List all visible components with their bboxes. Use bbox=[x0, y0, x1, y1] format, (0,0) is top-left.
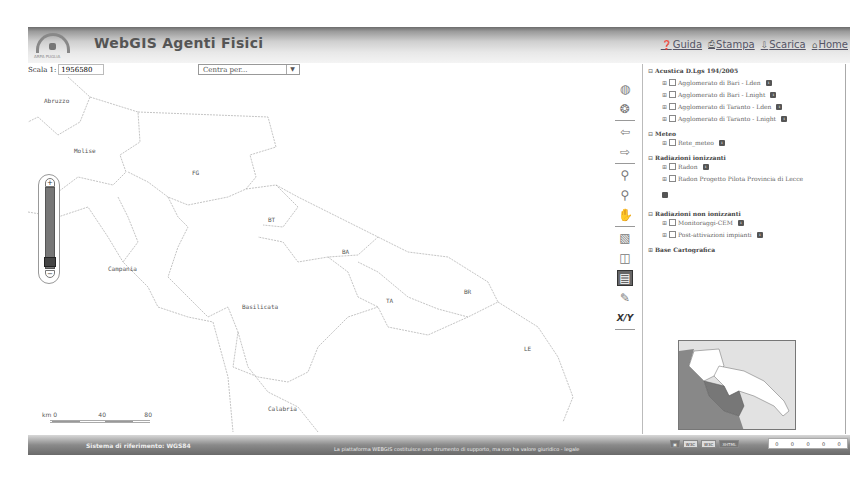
top-links: ❓Guida ⎙Stampa ⇩Scarica ⌂Home bbox=[661, 39, 848, 50]
scale-bar: km 0 40 80 bbox=[42, 411, 152, 418]
scale-input[interactable] bbox=[58, 64, 104, 75]
map-label-le: LE bbox=[524, 345, 531, 352]
layer-item: ⊞Agglomerato di Taranto - Lnighti bbox=[662, 115, 845, 122]
arpa-logo: ARPA PUGLIA bbox=[34, 31, 74, 63]
expand-icon[interactable]: ⊞ bbox=[662, 103, 667, 110]
layer-item: ⊞Post-attivazioni impiantii bbox=[662, 231, 845, 238]
info-icon[interactable]: i bbox=[719, 140, 725, 146]
previous-extent-icon[interactable]: ⇦ bbox=[617, 124, 633, 140]
info-icon[interactable]: i bbox=[738, 220, 744, 226]
app-title: WebGIS Agenti Fisici bbox=[94, 35, 263, 51]
layer-checkbox[interactable] bbox=[669, 115, 676, 122]
expand-icon[interactable]: ⊞ bbox=[662, 219, 667, 226]
next-extent-icon[interactable]: ⇨ bbox=[617, 144, 633, 160]
status-bar: Sistema di riferimento: WGS84 La piattaf… bbox=[28, 435, 850, 455]
layer-item: ⊞Radoni bbox=[662, 163, 845, 170]
expand-icon[interactable]: ⊞ bbox=[648, 246, 653, 253]
select-box-icon[interactable]: ▧ bbox=[617, 230, 633, 246]
info-icon[interactable] bbox=[662, 192, 668, 198]
map-label-basilicata: Basilicata bbox=[242, 303, 278, 310]
globe-icon[interactable]: ❂ bbox=[617, 101, 633, 117]
map-label-calabria: Calabria bbox=[268, 405, 297, 412]
download-icon: ⇩ bbox=[761, 40, 769, 50]
footer-button[interactable]: XHTML bbox=[719, 440, 739, 448]
map-label-br: BR bbox=[464, 288, 471, 295]
zoom-in-icon[interactable]: ⚲ bbox=[617, 167, 633, 183]
layer-checkbox[interactable] bbox=[669, 139, 676, 146]
layer-group-radiazioni-ionizzanti[interactable]: ⊟Radiazioni ionizzanti bbox=[648, 154, 845, 161]
layer-group-radiazioni-non-ionizzanti[interactable]: ⊟Radiazioni non ionizzanti bbox=[648, 210, 845, 217]
layer-checkbox[interactable] bbox=[669, 79, 676, 86]
footer-buttons: ▣ W3C W3C XHTML bbox=[670, 440, 739, 448]
map-canvas[interactable]: Abruzzo Molise FG BT BA Campania Basilic… bbox=[28, 77, 614, 432]
zoom-slider[interactable]: + − bbox=[38, 174, 60, 284]
query-icon[interactable]: ◫ bbox=[617, 250, 633, 266]
layer-item: ⊞Agglomerato di Bari - Ldeni bbox=[662, 79, 845, 86]
xy-icon[interactable]: X/Y bbox=[617, 310, 633, 326]
scalebar-unit: km 0 bbox=[42, 411, 64, 418]
info-icon[interactable]: i bbox=[703, 164, 709, 170]
full-extent-icon[interactable]: ◍ bbox=[617, 81, 633, 97]
info-icon[interactable]: i bbox=[757, 232, 763, 238]
expand-icon[interactable]: ⊞ bbox=[662, 175, 667, 182]
layer-group-acustica[interactable]: ⊟Acustica D.Lgs 194/2005 bbox=[648, 67, 845, 74]
footer-button[interactable]: W3C bbox=[701, 440, 716, 448]
expand-icon[interactable]: ⊞ bbox=[662, 231, 667, 238]
layer-checkbox[interactable] bbox=[669, 175, 676, 182]
info-icon[interactable]: i bbox=[766, 80, 772, 86]
map-label-abruzzo: Abruzzo bbox=[44, 97, 69, 104]
pan-icon[interactable]: ✋ bbox=[617, 207, 633, 223]
measure-icon[interactable]: ✎ bbox=[617, 290, 633, 306]
center-by-select[interactable]: Centra per... ▼ bbox=[198, 64, 300, 75]
layer-checkbox[interactable] bbox=[669, 163, 676, 170]
scalebar-line bbox=[50, 420, 150, 423]
map-toolbar: ◍ ❂ ⇦ ⇨ ⚲ ⚲ ✋ ▧ ◫ ▤ ✎ X/Y bbox=[612, 79, 638, 331]
info-icon[interactable]: i bbox=[776, 104, 782, 110]
info-balloon-icon[interactable]: ▤ bbox=[617, 270, 633, 286]
expand-icon[interactable]: ⊞ bbox=[662, 163, 667, 170]
layer-item: ⊞Agglomerato di Taranto - Ldeni bbox=[662, 103, 845, 110]
layer-item: ⊞Rete_meteoi bbox=[662, 139, 845, 146]
layer-checkbox[interactable] bbox=[669, 231, 676, 238]
zoom-out-icon[interactable]: ⚲ bbox=[617, 187, 633, 203]
home-link[interactable]: ⌂Home bbox=[812, 39, 848, 50]
layer-checkbox[interactable] bbox=[669, 91, 676, 98]
help-icon: ❓ bbox=[661, 40, 672, 50]
header: ARPA PUGLIA WebGIS Agenti Fisici ❓Guida … bbox=[28, 27, 850, 63]
layer-group-base-cartografica[interactable]: ⊞Base Cartografica bbox=[648, 246, 845, 253]
zoom-thumb[interactable] bbox=[44, 257, 56, 267]
footer-button[interactable]: ▣ bbox=[670, 440, 680, 448]
scarica-link[interactable]: ⇩Scarica bbox=[761, 39, 806, 50]
overview-map[interactable] bbox=[678, 340, 796, 430]
home-icon: ⌂ bbox=[812, 40, 818, 50]
footer-button[interactable]: W3C bbox=[683, 440, 698, 448]
layer-group-meteo[interactable]: ⊟Meteo bbox=[648, 130, 845, 137]
collapse-icon[interactable]: ⊟ bbox=[648, 210, 653, 217]
expand-icon[interactable]: ⊞ bbox=[662, 91, 667, 98]
layer-checkbox[interactable] bbox=[669, 219, 676, 226]
print-icon: ⎙ bbox=[708, 39, 715, 50]
coordinates-display: 00000 bbox=[768, 438, 848, 449]
collapse-icon[interactable]: ⊟ bbox=[648, 154, 653, 161]
scale-label: Scala 1: bbox=[28, 66, 56, 74]
layer-checkbox[interactable] bbox=[669, 103, 676, 110]
expand-icon[interactable]: ⊞ bbox=[662, 115, 667, 122]
info-icon[interactable]: i bbox=[770, 92, 776, 98]
zoom-minus-button[interactable]: − bbox=[45, 270, 55, 278]
expand-icon[interactable]: ⊞ bbox=[662, 79, 667, 86]
collapse-icon[interactable]: ⊟ bbox=[648, 67, 653, 74]
expand-icon[interactable]: ⊞ bbox=[662, 139, 667, 146]
panel-divider bbox=[642, 64, 643, 434]
map-label-ta: TA bbox=[386, 297, 393, 304]
layer-item: ⊞Radon Progetto Pilota Provincia di Lecc… bbox=[662, 175, 845, 182]
zoom-plus-button[interactable]: + bbox=[45, 178, 55, 187]
stampa-link[interactable]: ⎙Stampa bbox=[708, 39, 755, 50]
map-label-molise: Molise bbox=[74, 147, 96, 154]
map-label-campania: Campania bbox=[108, 265, 137, 272]
collapse-icon[interactable]: ⊟ bbox=[648, 130, 653, 137]
info-icon[interactable]: i bbox=[781, 116, 787, 122]
map-label-ba: BA bbox=[342, 248, 349, 255]
disclaimer: La piattaforma WEBGIS costituisce uno st… bbox=[334, 446, 579, 452]
guida-link[interactable]: ❓Guida bbox=[661, 39, 702, 50]
map-label-fg: FG bbox=[192, 169, 199, 176]
